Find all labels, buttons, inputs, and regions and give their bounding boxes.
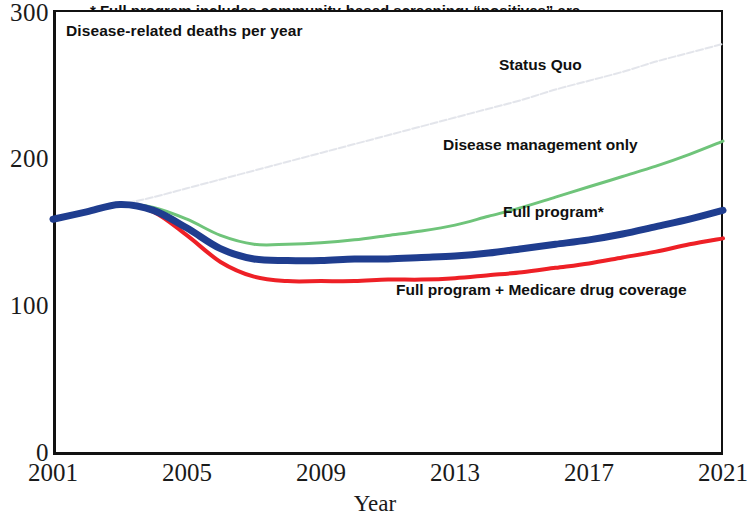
x-axis-tick-2021: 2021: [668, 459, 750, 487]
series-label-full-program-medicare: Full program + Medicare drug coverage: [396, 281, 687, 299]
series-label-disease-management: Disease management only: [443, 136, 638, 154]
x-axis-title: Year: [0, 491, 750, 517]
series-label-full-program: Full program*: [503, 203, 604, 221]
x-axis-tick-2017: 2017: [534, 459, 644, 487]
plot-area-frame: [53, 10, 723, 455]
x-axis-tick-2001: 2001: [0, 459, 108, 487]
x-axis-tick-2013: 2013: [400, 459, 510, 487]
series-label-status-quo: Status Quo: [499, 56, 582, 74]
x-axis-tick-2005: 2005: [132, 459, 242, 487]
plot-title: Disease-related deaths per year: [66, 22, 303, 40]
chart-canvas: 300 200 100 0 200120052009201320172021 Y…: [0, 0, 750, 519]
y-axis-tick-100: 100: [0, 292, 49, 320]
y-axis-tick-200: 200: [0, 145, 49, 173]
x-axis-tick-2009: 2009: [266, 459, 376, 487]
y-axis-tick-300: 300: [0, 0, 49, 27]
